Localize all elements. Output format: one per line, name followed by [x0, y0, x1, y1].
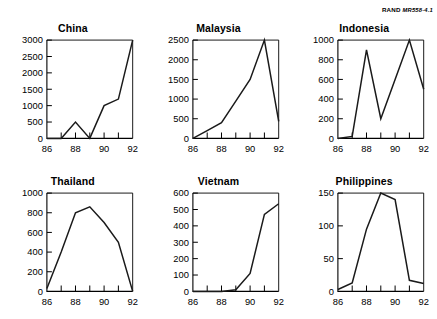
x-tick-label: 88 — [70, 296, 80, 307]
x-tick-label: 92 — [419, 143, 429, 154]
source-id: MR558-4.1 — [403, 7, 433, 13]
data-series-line — [47, 40, 133, 138]
x-tick-label: 88 — [216, 296, 226, 307]
y-tick-label: 500 — [27, 116, 43, 127]
x-tick-label: 92 — [273, 143, 283, 154]
x-tick-label: 92 — [127, 143, 137, 154]
y-tick-label: 1500 — [168, 74, 189, 85]
x-tick-label: 88 — [362, 296, 372, 307]
y-tick-label: 400 — [27, 246, 43, 257]
x-tick-label: 90 — [390, 143, 400, 154]
x-tick-label: 90 — [99, 143, 109, 154]
y-tick-label: 0 — [183, 285, 188, 296]
y-tick-label: 1000 — [168, 93, 189, 104]
chart-panel-malaysia: Malaysia 0500100015002000250086889092 — [146, 14, 292, 167]
chart-svg: 05001000150020002500300086889092 — [0, 14, 146, 167]
data-series-line — [338, 193, 424, 289]
x-tick-label: 86 — [42, 296, 52, 307]
x-tick-label: 92 — [127, 296, 137, 307]
y-tick-label: 2500 — [168, 34, 189, 45]
y-tick-label: 100 — [319, 220, 335, 231]
y-tick-label: 200 — [173, 253, 189, 264]
chart-svg: 0500100015002000250086889092 — [146, 14, 292, 167]
y-tick-label: 800 — [27, 207, 43, 218]
x-tick-label: 86 — [333, 296, 343, 307]
y-tick-label: 0 — [329, 133, 334, 144]
y-tick-label: 1000 — [22, 100, 43, 111]
y-tick-label: 600 — [319, 74, 335, 85]
y-tick-label: 0 — [329, 285, 334, 296]
chart-svg: 0200400600800100086889092 — [0, 167, 146, 319]
y-tick-label: 300 — [173, 236, 189, 247]
chart-svg: 0200400600800100086889092 — [291, 14, 437, 167]
x-tick-label: 92 — [273, 296, 283, 307]
y-tick-label: 150 — [319, 187, 335, 198]
y-tick-label: 1000 — [22, 187, 43, 198]
x-tick-label: 86 — [187, 143, 197, 154]
chart-panel-philippines: Philippines 05010015086889092 — [291, 167, 437, 319]
x-tick-label: 86 — [333, 143, 343, 154]
y-tick-label: 0 — [38, 285, 43, 296]
y-tick-label: 800 — [319, 54, 335, 65]
x-tick-label: 88 — [362, 143, 372, 154]
y-tick-label: 2000 — [168, 54, 189, 65]
x-tick-label: 92 — [419, 296, 429, 307]
data-series-line — [47, 206, 133, 291]
x-tick-label: 90 — [390, 296, 400, 307]
y-tick-label: 2000 — [22, 67, 43, 78]
source-prefix: RAND — [382, 6, 401, 13]
y-tick-label: 400 — [319, 93, 335, 104]
x-tick-label: 88 — [216, 143, 226, 154]
x-tick-label: 86 — [42, 143, 52, 154]
chart-svg: 010020030040050060086889092 — [146, 167, 292, 319]
y-tick-label: 600 — [27, 226, 43, 237]
x-tick-label: 90 — [245, 143, 255, 154]
y-tick-label: 50 — [324, 253, 334, 264]
y-tick-label: 200 — [319, 113, 335, 124]
y-tick-label: 500 — [173, 203, 189, 214]
y-tick-label: 200 — [27, 266, 43, 277]
chart-panel-vietnam: Vietnam 010020030040050060086889092 — [146, 167, 292, 319]
x-tick-label: 88 — [70, 143, 80, 154]
x-tick-label: 86 — [187, 296, 197, 307]
y-tick-label: 1500 — [22, 84, 43, 95]
data-series-line — [338, 40, 424, 138]
small-multiples-grid: China 05001000150020002500300086889092 M… — [0, 14, 437, 319]
y-tick-label: 600 — [173, 187, 189, 198]
data-series-line — [193, 203, 279, 291]
figure-container: RAND MR558-4.1 China 0500100015002000250… — [0, 0, 437, 319]
chart-svg: 05010015086889092 — [291, 167, 437, 319]
y-tick-label: 100 — [173, 269, 189, 280]
y-tick-label: 500 — [173, 113, 189, 124]
y-tick-label: 2500 — [22, 51, 43, 62]
x-tick-label: 90 — [245, 296, 255, 307]
chart-panel-indonesia: Indonesia 0200400600800100086889092 — [291, 14, 437, 167]
y-tick-label: 0 — [183, 133, 188, 144]
y-tick-label: 3000 — [22, 34, 43, 45]
data-series-line — [193, 40, 279, 138]
chart-panel-thailand: Thailand 0200400600800100086889092 — [0, 167, 146, 319]
y-tick-label: 1000 — [313, 34, 334, 45]
y-tick-label: 0 — [38, 133, 43, 144]
chart-panel-china: China 05001000150020002500300086889092 — [0, 14, 146, 167]
x-tick-label: 90 — [99, 296, 109, 307]
source-label: RAND MR558-4.1 — [382, 6, 433, 13]
y-tick-label: 400 — [173, 220, 189, 231]
